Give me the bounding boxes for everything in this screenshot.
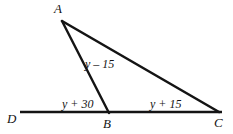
angle-expression-bca: y + 15 [150,98,181,110]
vertex-label-a: A [54,2,62,15]
vertex-label-c: C [214,116,223,129]
geometry-canvas [0,0,233,134]
vertex-label-d: D [7,112,16,125]
angle-expression-abc: y – 15 [85,58,114,70]
angle-expression-abd: y + 30 [62,98,93,110]
vertex-label-b: B [103,117,111,130]
geometry-figure: A D B C y – 15 y + 30 y + 15 [0,0,233,134]
